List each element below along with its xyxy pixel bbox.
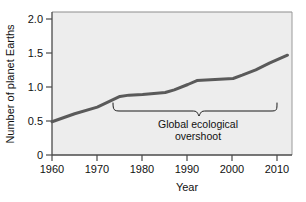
y-tick-label-0-5: 0.5 [28, 115, 43, 127]
plot-area-background [52, 12, 292, 155]
x-tick-label-1990: 1990 [175, 163, 199, 175]
overshoot-label-line-1: Global ecological [158, 118, 238, 130]
x-tick-label-2000: 2000 [220, 163, 244, 175]
y-tick-label-1-0: 1.0 [28, 81, 43, 93]
y-tick-label-1-5: 1.5 [28, 47, 43, 59]
chart-figure: 2.0 1.5 1.0 0.5 0 1960 1970 1980 1990 20… [0, 0, 306, 202]
x-tick-label-1980: 1980 [130, 163, 154, 175]
x-tick-label-1960: 1960 [40, 163, 64, 175]
x-tick-label-1970: 1970 [85, 163, 109, 175]
y-tick-label-2-0: 2.0 [28, 13, 43, 25]
x-tick-label-2010: 2010 [265, 163, 289, 175]
line-chart: 2.0 1.5 1.0 0.5 0 1960 1970 1980 1990 20… [0, 0, 306, 202]
x-axis-title: Year [176, 181, 199, 193]
y-tick-label-0: 0 [37, 149, 43, 161]
y-axis-title: Number of planet Earths [4, 24, 16, 144]
overshoot-label-line-2: overshoot [175, 130, 221, 142]
